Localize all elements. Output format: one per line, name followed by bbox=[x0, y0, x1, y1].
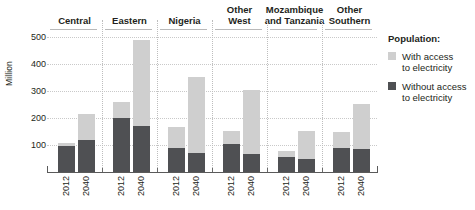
group-header-rule bbox=[325, 29, 372, 30]
bar-nigeria-2012 bbox=[168, 127, 185, 172]
bar-segment-without-access bbox=[168, 148, 185, 172]
legend-item-label-line: Without access bbox=[402, 81, 466, 92]
group-separator bbox=[322, 20, 323, 172]
y-tick-label-300: 300 bbox=[16, 87, 46, 96]
x-tick-label-2012: 2012 bbox=[226, 176, 237, 196]
bar-other-southern-2040 bbox=[353, 104, 370, 172]
legend-items: With accessto electricityWithout accesst… bbox=[388, 51, 474, 103]
bar-other-west-2040 bbox=[243, 90, 260, 172]
group-header-rule bbox=[50, 29, 97, 30]
bar-segment-without-access bbox=[243, 154, 260, 172]
group-separator-tick bbox=[102, 168, 103, 172]
bar-mozambique-and-tanzania-2012 bbox=[278, 151, 295, 172]
bar-segment-with-access bbox=[168, 127, 185, 147]
group-header-line: Southern bbox=[316, 15, 383, 26]
bar-segment-without-access bbox=[188, 153, 205, 172]
bar-segment-without-access bbox=[333, 148, 350, 172]
bar-segment-without-access bbox=[298, 159, 315, 172]
group-header-rule bbox=[105, 29, 152, 30]
legend-item-label-line: to electricity bbox=[402, 92, 466, 103]
bar-segment-with-access bbox=[223, 131, 240, 144]
legend-item-label: With accessto electricity bbox=[402, 51, 453, 73]
group-separator bbox=[267, 20, 268, 172]
group-header-line: Other bbox=[316, 4, 383, 15]
bar-segment-without-access bbox=[353, 149, 370, 172]
bar-eastern-2040 bbox=[133, 40, 150, 172]
group-header-other-southern: OtherSouthern bbox=[316, 4, 383, 26]
legend-item-label: Without accessto electricity bbox=[402, 81, 466, 103]
bar-segment-without-access bbox=[113, 118, 130, 172]
x-tick-label-2012: 2012 bbox=[61, 176, 72, 196]
y-tick-label-200: 200 bbox=[16, 114, 46, 123]
y-axis-tick-labels: 100200300400500 bbox=[12, 0, 46, 210]
x-tick-label-2012: 2012 bbox=[281, 176, 292, 196]
x-axis-right-cap bbox=[377, 166, 378, 172]
x-axis-left-cap bbox=[47, 166, 48, 172]
bar-central-2040 bbox=[78, 114, 95, 172]
bar-nigeria-2040 bbox=[188, 77, 205, 172]
group-separator-tick bbox=[212, 168, 213, 172]
x-tick-label-2040: 2040 bbox=[356, 176, 367, 196]
bar-segment-without-access bbox=[133, 126, 150, 172]
x-tick-label-2040: 2040 bbox=[191, 176, 202, 196]
x-tick-label-2040: 2040 bbox=[81, 176, 92, 196]
group-header-rule bbox=[270, 29, 317, 30]
bar-segment-with-access bbox=[243, 90, 260, 154]
bar-other-west-2012 bbox=[223, 131, 240, 172]
stacked-bar-chart: Million 100200300400500 CentralEasternNi… bbox=[0, 0, 475, 210]
x-tick-label-2040: 2040 bbox=[246, 176, 257, 196]
group-header-rule bbox=[215, 29, 262, 30]
bar-segment-without-access bbox=[223, 144, 240, 172]
group-separator-tick bbox=[267, 168, 268, 172]
x-tick-label-2012: 2012 bbox=[116, 176, 127, 196]
bar-segment-with-access bbox=[333, 132, 350, 148]
legend-item-without-access: Without accessto electricity bbox=[388, 81, 474, 103]
bar-segment-with-access bbox=[133, 40, 150, 126]
legend-item-label-line: With access bbox=[402, 51, 453, 62]
bar-segment-with-access bbox=[78, 114, 95, 140]
bar-segment-with-access bbox=[298, 131, 315, 159]
y-tick-label-500: 500 bbox=[16, 33, 46, 42]
bar-segment-with-access bbox=[353, 104, 370, 149]
bar-segment-with-access bbox=[188, 77, 205, 153]
x-tick-label-2040: 2040 bbox=[301, 176, 312, 196]
group-header-rule bbox=[160, 29, 207, 30]
group-separator-tick bbox=[322, 168, 323, 172]
bar-segment-without-access bbox=[58, 146, 75, 172]
bar-eastern-2012 bbox=[113, 102, 130, 172]
y-tick-label-100: 100 bbox=[16, 141, 46, 150]
bar-mozambique-and-tanzania-2040 bbox=[298, 131, 315, 172]
bar-central-2012 bbox=[58, 143, 75, 172]
group-separator bbox=[157, 20, 158, 172]
group-separator-tick bbox=[157, 168, 158, 172]
legend-item-with-access: With accessto electricity bbox=[388, 51, 474, 73]
legend-swatch-icon bbox=[388, 52, 396, 60]
bar-segment-without-access bbox=[278, 157, 295, 172]
bar-segment-with-access bbox=[113, 102, 130, 118]
x-tick-label-2012: 2012 bbox=[171, 176, 182, 196]
group-separator bbox=[212, 20, 213, 172]
x-tick-label-2012: 2012 bbox=[336, 176, 347, 196]
legend-title: Population: bbox=[388, 33, 474, 44]
bar-segment-without-access bbox=[78, 140, 95, 172]
legend-item-label-line: to electricity bbox=[402, 62, 453, 73]
bar-other-southern-2012 bbox=[333, 132, 350, 172]
chart-legend: Population: With accessto electricityWit… bbox=[388, 33, 474, 111]
y-tick-label-400: 400 bbox=[16, 60, 46, 69]
group-separator bbox=[102, 20, 103, 172]
x-tick-label-2040: 2040 bbox=[136, 176, 147, 196]
legend-swatch-icon bbox=[388, 82, 396, 90]
